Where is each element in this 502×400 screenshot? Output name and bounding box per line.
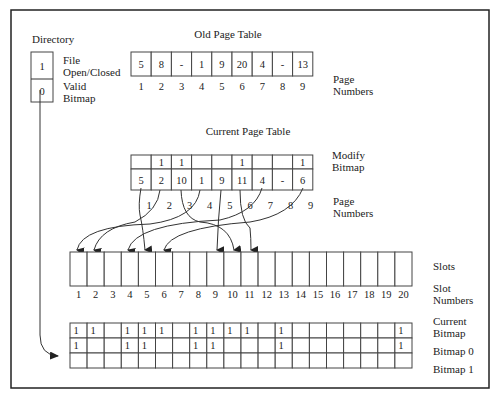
slot-number: 13 xyxy=(279,289,290,300)
slot-number: 9 xyxy=(213,289,218,300)
bitmap0-bitmap-cell xyxy=(156,338,173,353)
current-bitmap-cell xyxy=(344,323,361,338)
bitmap1-bitmap-cell xyxy=(344,353,361,368)
slot-number: 3 xyxy=(110,289,115,300)
valid-bitmap-label-2: Bitmap xyxy=(63,92,96,104)
slot-number: 15 xyxy=(313,289,324,300)
old-page-table-entry: 20 xyxy=(237,59,248,70)
slot-number: 6 xyxy=(161,289,166,300)
slots-label: Slots xyxy=(433,260,455,272)
file-open-closed-value: 1 xyxy=(39,61,44,72)
current-bit: 1 xyxy=(125,325,130,336)
slot-cell xyxy=(292,252,309,286)
page-to-slot-arrows xyxy=(77,188,303,250)
slot-cell xyxy=(173,252,190,286)
bitmap1-bitmap-cell xyxy=(173,353,190,368)
bitmap0-bitmap-cell xyxy=(361,338,378,353)
old-page-table-entry: 13 xyxy=(297,59,308,70)
bitmap1-bitmap-cell xyxy=(224,353,241,368)
slot-cell xyxy=(156,252,173,286)
arrow-page2-slot2 xyxy=(94,190,160,250)
old-page-number: 1 xyxy=(138,81,143,92)
bitmap0-bitmap-cell xyxy=(224,338,241,353)
bitmap1-bitmap-cell xyxy=(70,353,87,368)
current-page-number: 7 xyxy=(268,200,273,211)
bitmap0-bitmap-cell xyxy=(241,338,258,353)
old-page-number: 3 xyxy=(179,81,184,92)
valid-bitmap-pointer-arrow xyxy=(40,90,58,356)
bitmap0-bitmap-cell xyxy=(292,338,309,353)
shadow-paging-diagram: Directory 1 0 File Open/Closed Valid Bit… xyxy=(0,0,502,400)
bitmap1-bitmap-cell xyxy=(121,353,138,368)
current-page-table-entry: 5 xyxy=(138,175,143,186)
old-page-table-entry: - xyxy=(281,59,285,70)
current-bit: 1 xyxy=(90,325,95,336)
current-page-table-entry: 9 xyxy=(219,175,224,186)
bitmap0-bitmap-cell xyxy=(309,338,326,353)
slot-cell xyxy=(121,252,138,286)
current-page-table-entry: 4 xyxy=(260,175,266,186)
slot-number: 14 xyxy=(296,289,307,300)
bitmap0-label: Bitmap 0 xyxy=(433,345,474,357)
current-bitmap-cell xyxy=(173,323,190,338)
current-bit: 1 xyxy=(193,325,198,336)
current-page-table-entry: - xyxy=(281,175,285,186)
current-bit: 1 xyxy=(142,325,147,336)
current-bit: 1 xyxy=(73,325,78,336)
old-page-table-title: Old Page Table xyxy=(194,28,262,40)
current-page-number: 5 xyxy=(227,200,232,211)
slot-number: 4 xyxy=(127,289,133,300)
slot-cell xyxy=(104,252,121,286)
old-page-number: 2 xyxy=(159,81,164,92)
slot-number: 11 xyxy=(244,289,254,300)
bitmap0-bitmap-cell xyxy=(258,338,275,353)
old-page-numbers-label-1: Page xyxy=(333,73,355,85)
arrow-page9-slot6 xyxy=(164,188,303,250)
bitmap1-bitmap-cell xyxy=(292,353,309,368)
slot-cell xyxy=(190,252,207,286)
modify-bitmap-label-1: Modify xyxy=(332,149,366,161)
current-bitmap-cell xyxy=(292,323,309,338)
slot-number: 16 xyxy=(330,289,341,300)
bitmaps: 111111111111111111 Current Bitmap Bitmap… xyxy=(70,315,474,375)
current-bitmap-cell xyxy=(309,323,326,338)
current-bit: 1 xyxy=(398,325,403,336)
slot-number: 1 xyxy=(76,289,81,300)
bitmap1-bitmap-cell xyxy=(275,353,292,368)
bitmap0-bit: 1 xyxy=(210,340,215,351)
slot-cell xyxy=(241,252,258,286)
current-bit: 1 xyxy=(279,325,284,336)
current-bit: 1 xyxy=(227,325,232,336)
modify-bit: 1 xyxy=(300,157,305,168)
slot-number: 20 xyxy=(398,289,409,300)
slot-cell xyxy=(258,252,275,286)
slot-cell xyxy=(138,252,155,286)
bitmap0-bit: 1 xyxy=(193,340,198,351)
old-page-number: 4 xyxy=(199,81,205,92)
old-page-number: 7 xyxy=(260,81,265,92)
bitmap1-bitmap-cell xyxy=(309,353,326,368)
current-page-table-entry: 6 xyxy=(300,175,305,186)
modify-bit: 1 xyxy=(179,157,184,168)
bitmap1-bitmap-cell xyxy=(87,353,104,368)
modify-bitmap-cell xyxy=(212,155,232,169)
current-page-number: 2 xyxy=(167,200,172,211)
arrow-page7-slot4 xyxy=(128,188,262,250)
slot-number: 17 xyxy=(347,289,358,300)
bitmap0-bitmap-cell xyxy=(104,338,121,353)
old-page-table-entry: 5 xyxy=(138,59,143,70)
bitmap0-bit: 1 xyxy=(125,340,130,351)
slot-number: 5 xyxy=(144,289,149,300)
old-page-number: 5 xyxy=(219,81,224,92)
current-bitmap-cell xyxy=(258,323,275,338)
valid-bitmap-label-1: Valid xyxy=(63,80,87,92)
old-page-numbers-label-2: Numbers xyxy=(333,85,373,97)
modify-bit: 1 xyxy=(159,157,164,168)
current-page-table-entry: 1 xyxy=(199,175,204,186)
file-open-closed-label-1: File xyxy=(63,54,80,66)
current-page-numbers-label-2: Numbers xyxy=(333,207,373,219)
current-bitmap-label-1: Current xyxy=(433,315,467,327)
modify-bitmap-label-2: Bitmap xyxy=(332,161,365,173)
current-page-table-entry: 2 xyxy=(159,175,164,186)
file-open-closed-label-2: Open/Closed xyxy=(63,66,121,78)
